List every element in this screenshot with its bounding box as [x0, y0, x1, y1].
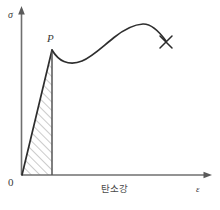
figure-canvas: σ ε 0 P 탄소강	[0, 0, 220, 210]
figure-caption: 탄소강	[101, 183, 128, 194]
origin-label: 0	[8, 176, 14, 188]
strain-axis-arrowhead	[204, 172, 213, 178]
stress-axis-arrowhead	[18, 6, 25, 15]
strain-axis-label: ε	[196, 184, 200, 194]
proportional-limit-label: P	[46, 32, 54, 44]
stress-strain-curve	[52, 24, 166, 63]
stress-strain-figure: σ ε 0 P 탄소강	[0, 0, 220, 210]
stress-axis-label: σ	[8, 9, 14, 20]
fracture-x-icon	[160, 36, 172, 48]
